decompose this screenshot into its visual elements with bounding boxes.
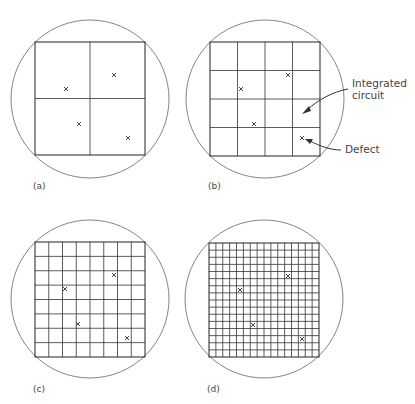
defect-annotation: Defect [305,139,380,155]
integrated-circuit-annotation: Integrated circuit [302,77,407,114]
wafer-panel-a: (a) [11,20,169,191]
defect-arrow [310,141,341,150]
defect-x-icon [63,287,67,291]
panel-label: (b) [208,181,221,191]
wafer-panel-c: (c) [11,220,169,394]
panel-label: (c) [33,384,45,394]
integrated-label-line1: Integrated [352,77,407,89]
defect-x-icon [286,274,290,278]
defect-label: Defect [345,143,380,155]
integrated-label-line2: circuit [352,89,384,101]
defect-x-icon [300,136,304,140]
defect-x-icon [286,73,290,77]
panels: (a)(b)(c)(d) [11,20,344,394]
wafer-panel-b: (b) [186,20,344,191]
defect-x-icon [251,323,255,327]
defect-x-icon [77,122,81,126]
integrated-circuit-arrow [307,89,348,110]
defect-x-icon [64,87,68,91]
panel-label: (a) [33,181,46,191]
defect-x-icon [238,288,242,292]
defect-x-icon [125,336,129,340]
defect-x-icon [252,122,256,126]
defect-x-icon [239,87,243,91]
wafer-panel-d: (d) [185,220,343,394]
defect-x-icon [300,337,304,341]
defect-x-icon [126,136,130,140]
panel-label: (d) [207,384,220,394]
defect-x-icon [112,73,116,77]
defect-x-icon [112,273,116,277]
wafer-defect-diagram: (a)(b)(c)(d) Integrated circuit Defect [0,0,415,404]
